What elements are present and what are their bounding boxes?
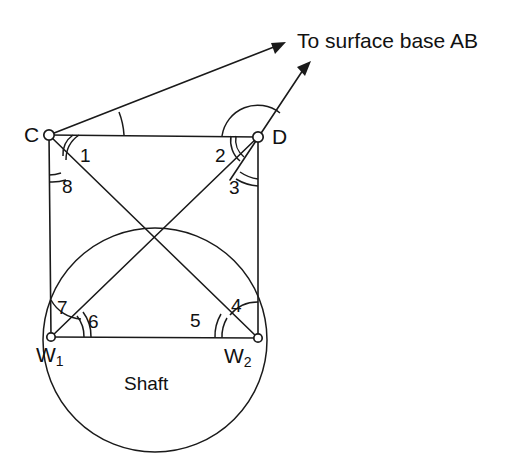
engineering-diagram: C D W1 W2 1 2 3 4 5 6 7 8 To surface bas… <box>0 0 509 472</box>
vertex-label-D: D <box>272 126 287 147</box>
angle-label-7: 7 <box>57 298 68 317</box>
geometry-canvas <box>0 0 509 472</box>
angle-arc-8-inner <box>49 173 61 175</box>
angle-arc-2-inner <box>236 136 244 157</box>
edge-W1-W2 <box>51 337 258 338</box>
vertex-label-W2-text: W <box>224 344 244 367</box>
vertex-label-W2-subscript: 2 <box>244 354 252 370</box>
angle-label-6: 6 <box>88 312 99 331</box>
angle-label-2: 2 <box>215 146 226 165</box>
edge-C-D <box>49 135 258 137</box>
angle-arc-5-outer <box>215 314 221 338</box>
vertex-marker-C <box>44 130 54 140</box>
vertex-marker-D <box>253 132 263 142</box>
angle-arc-5-inner <box>222 318 227 338</box>
arrow-line-from-C <box>49 45 279 135</box>
vertex-label-W1: W1 <box>36 344 64 365</box>
arrow-head-from-D <box>297 61 311 76</box>
shaft-caption: Shaft <box>124 374 168 393</box>
vertex-label-D-text: D <box>272 125 287 148</box>
vertex-label-W1-subscript: 1 <box>56 353 64 369</box>
surface-base-annotation: To surface base AB <box>297 30 478 51</box>
vertex-label-C-text: C <box>24 123 39 146</box>
vertex-label-C: C <box>24 124 39 145</box>
vertex-label-W1-text: W <box>36 343 56 366</box>
vertex-label-W2: W2 <box>224 345 252 366</box>
angle-label-8: 8 <box>62 177 73 196</box>
vertex-marker-W2 <box>254 334 262 342</box>
vertex-marker-W1 <box>47 333 55 341</box>
arrow-line-from-D <box>230 67 305 180</box>
shaft-circle <box>43 228 267 452</box>
angle-label-3: 3 <box>229 178 240 197</box>
angle-label-5: 5 <box>190 311 201 330</box>
angle-label-4: 4 <box>231 296 242 315</box>
angle-arc-C-unlabeled <box>119 112 124 135</box>
angle-label-1: 1 <box>80 146 91 165</box>
arrow-head-from-C <box>271 42 286 54</box>
angle-arc-3-inner <box>240 172 258 179</box>
edge-C-W1 <box>49 135 51 337</box>
